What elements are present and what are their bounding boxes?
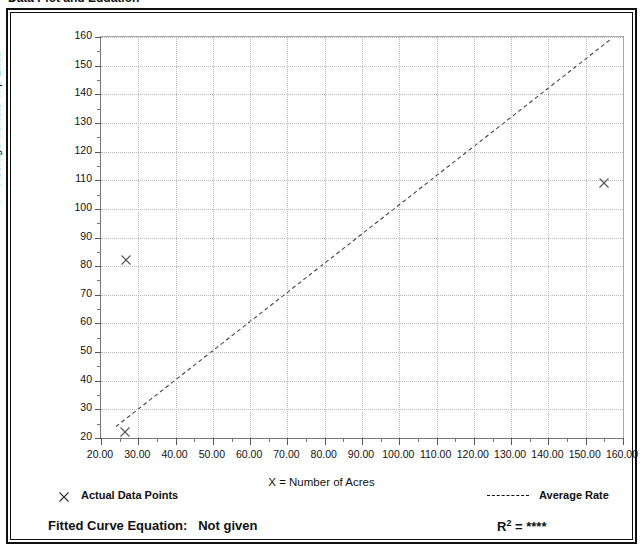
x-axis-minor-tick	[157, 438, 158, 442]
legend-item-average-rate: Average Rate	[487, 489, 609, 501]
x-axis-tick-label: 130.00	[494, 448, 526, 460]
x-axis-minor-tick	[306, 438, 307, 442]
x-axis-tick	[176, 438, 177, 445]
y-axis-minor-tick	[97, 51, 101, 52]
r-squared-symbol: R	[497, 519, 506, 534]
x-axis-minor-tick	[418, 438, 419, 442]
x-axis-tick	[101, 438, 102, 445]
x-axis-tick	[474, 438, 475, 445]
legend-label-actual-data-points: Actual Data Points	[81, 489, 178, 501]
y-axis-tick	[95, 66, 101, 67]
gridline-vertical	[138, 37, 139, 438]
x-axis-minor-tick	[567, 438, 568, 442]
x-axis-tick-label: 70.00	[273, 448, 299, 460]
y-axis-minor-tick	[97, 80, 101, 81]
x-axis-tick	[399, 438, 400, 445]
data-point-marker	[120, 427, 131, 438]
y-axis-tick	[95, 180, 101, 181]
y-axis-tick-label: 60	[66, 315, 92, 327]
y-axis-title: T = Average Vehicle Trip Ends	[0, 51, 2, 205]
chart-page: Data Plot and Equation T = Average Vehic…	[0, 0, 643, 551]
fitted-curve-equation: Fitted Curve Equation: Not given	[48, 518, 257, 533]
x-axis-tick	[250, 438, 251, 445]
gridline-vertical	[399, 37, 400, 438]
gridline-vertical	[548, 37, 549, 438]
x-axis-tick	[138, 438, 139, 445]
y-axis-minor-tick	[97, 366, 101, 367]
x-axis-tick	[362, 438, 363, 445]
x-axis-minor-tick	[232, 438, 233, 442]
r-squared-equals: =	[515, 519, 523, 534]
x-axis-tick	[325, 438, 326, 445]
y-axis-tick-label: 130	[66, 115, 92, 127]
y-axis-tick-label: 160	[66, 29, 92, 41]
y-axis-tick-label: 70	[66, 287, 92, 299]
legend-label-average-rate: Average Rate	[539, 489, 609, 501]
y-axis-minor-tick	[97, 280, 101, 281]
x-axis-tick-label: 140.00	[531, 448, 563, 460]
x-axis-tick-label: 90.00	[348, 448, 374, 460]
y-axis-tick-label: 50	[66, 344, 92, 356]
x-axis-tick	[511, 438, 512, 445]
y-axis-minor-tick	[97, 109, 101, 110]
r-squared-exponent: 2	[506, 518, 511, 528]
x-axis-tick-label: 110.00	[420, 448, 451, 460]
y-axis-tick-label: 30	[66, 401, 92, 413]
y-axis-tick	[95, 152, 101, 153]
x-axis-minor-tick	[455, 438, 456, 442]
x-marker-icon	[58, 489, 70, 501]
data-point-marker	[120, 255, 131, 266]
gridline-vertical	[325, 37, 326, 438]
y-axis-tick	[95, 409, 101, 410]
x-axis-tick	[586, 438, 587, 445]
fitted-curve-equation-value: Not given	[198, 518, 257, 533]
dashed-line-icon	[487, 495, 529, 496]
y-axis-minor-tick	[97, 424, 101, 425]
legend-item-actual-data-points: Actual Data Points	[58, 489, 178, 501]
gridline-vertical	[474, 37, 475, 438]
fitted-curve-equation-label: Fitted Curve Equation:	[48, 518, 187, 533]
y-axis-tick-label: 90	[66, 230, 92, 242]
x-axis-minor-tick	[493, 438, 494, 442]
x-axis-tick-label: 50.00	[199, 448, 225, 460]
r-squared-value: R2 = ****	[497, 518, 547, 534]
y-axis-tick	[95, 266, 101, 267]
y-axis-minor-tick	[97, 166, 101, 167]
y-axis-tick	[95, 209, 101, 210]
gridline-vertical	[250, 37, 251, 438]
y-axis-tick	[95, 37, 101, 38]
y-axis-tick	[95, 238, 101, 239]
x-axis-minor-tick	[530, 438, 531, 442]
x-axis-tick	[548, 438, 549, 445]
y-axis-tick-label: 40	[66, 373, 92, 385]
plot-area	[100, 36, 624, 439]
y-axis-minor-tick	[97, 137, 101, 138]
x-axis-tick	[437, 438, 438, 445]
y-axis-minor-tick	[97, 195, 101, 196]
y-axis-minor-tick	[97, 395, 101, 396]
y-axis-tick-label: 110	[66, 172, 92, 184]
y-axis-minor-tick	[97, 338, 101, 339]
y-axis-tick-label: 150	[66, 58, 92, 70]
y-axis-tick	[95, 381, 101, 382]
plot-wrapper: T = Average Vehicle Trip Ends X = Number…	[0, 0, 643, 551]
gridline-vertical	[213, 37, 214, 438]
x-axis-tick	[213, 438, 214, 445]
gridline-vertical	[437, 37, 438, 438]
gridline-vertical	[287, 37, 288, 438]
y-axis-tick	[95, 123, 101, 124]
gridline-vertical	[586, 37, 587, 438]
y-axis-tick-label: 140	[66, 86, 92, 98]
x-axis-minor-tick	[120, 438, 121, 442]
x-axis-tick-label: 100.00	[382, 448, 414, 460]
gridline-vertical	[362, 37, 363, 438]
y-axis-tick-label: 100	[66, 201, 92, 213]
x-axis-minor-tick	[381, 438, 382, 442]
y-axis-tick	[95, 295, 101, 296]
y-axis-minor-tick	[97, 223, 101, 224]
x-axis-tick	[287, 438, 288, 445]
y-axis-tick	[95, 94, 101, 95]
x-axis-tick-label: 20.00	[87, 448, 113, 460]
x-axis-minor-tick	[269, 438, 270, 442]
gridline-vertical	[176, 37, 177, 438]
